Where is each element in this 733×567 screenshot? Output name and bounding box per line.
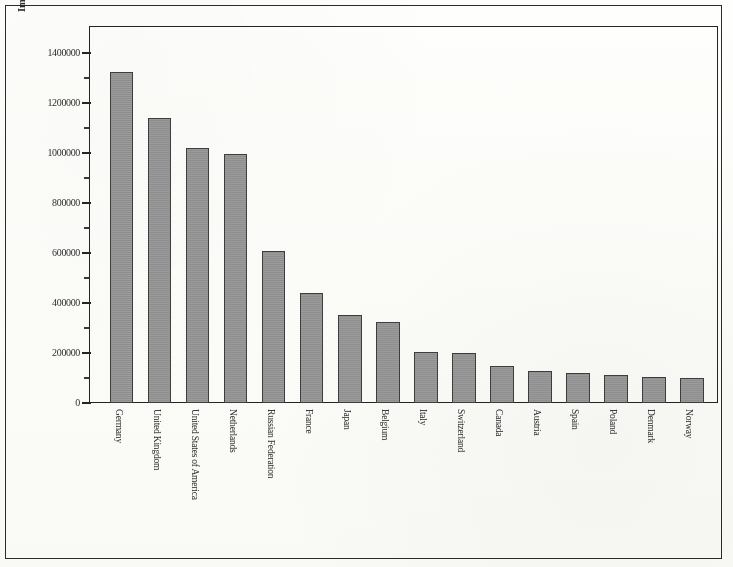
bar: [528, 371, 552, 404]
x-tick-label: Switzerland: [456, 409, 467, 452]
y-tick-label: 600000: [0, 247, 89, 259]
x-tick-label: Norway: [684, 409, 695, 438]
x-tick-label: Belgium: [380, 409, 391, 440]
x-tick-label: Austria: [532, 409, 543, 436]
x-tick-label: Spain: [570, 409, 581, 430]
bar-series: [89, 26, 718, 403]
x-tick-label: Italy: [418, 409, 429, 425]
x-tick-label: United States of America: [190, 409, 201, 500]
bar: [414, 352, 438, 403]
x-tick-label: United Kingdom: [152, 409, 163, 470]
bar: [604, 375, 628, 403]
bar: [262, 251, 286, 403]
bar: [452, 353, 476, 403]
bar: [338, 315, 362, 403]
x-tick-label: Canada: [494, 409, 505, 436]
y-tick-label: 200000: [0, 347, 89, 359]
bar: [490, 366, 514, 403]
x-tick-label: Japan: [342, 409, 353, 430]
bar: [148, 118, 172, 403]
x-tick-label: Germany: [114, 409, 125, 443]
y-tick-label: 400000: [0, 297, 89, 309]
x-tick-label: France: [304, 409, 315, 434]
chart-page: Import of car flows and trade(1000 $US) …: [0, 0, 733, 567]
bar: [186, 148, 210, 403]
bar: [642, 377, 666, 403]
x-axis-labels: GermanyUnited KingdomUnited States of Am…: [89, 409, 718, 559]
y-tick-label: 800000: [0, 197, 89, 209]
bar: [300, 293, 324, 404]
y-tick-label: 1000000: [0, 147, 89, 159]
y-tick-label: 1400000: [0, 47, 89, 59]
bar: [224, 154, 248, 403]
y-tick-label: 0: [0, 397, 89, 409]
y-axis-label: Import of car flows and trade(1000 $US): [16, 0, 34, 90]
x-tick-label: Netherlands: [228, 409, 239, 453]
x-tick-label: Denmark: [646, 409, 657, 443]
y-tick-label: 1200000: [0, 97, 89, 109]
bar: [110, 72, 134, 403]
bar: [680, 378, 704, 403]
x-tick-label: Poland: [608, 409, 619, 434]
bar: [376, 322, 400, 403]
bar: [566, 373, 590, 403]
x-tick-label: Russian Federation: [266, 409, 277, 478]
